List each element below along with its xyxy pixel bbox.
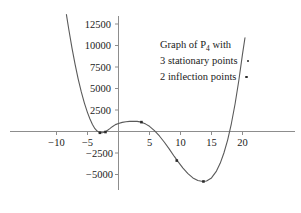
curve-marked-point <box>202 180 205 183</box>
y-tick-label-2500: 2500 <box>90 105 111 116</box>
stationary-point-dot-icon <box>247 60 249 62</box>
x-tick-label-5: 5 <box>147 137 152 148</box>
annotation-line-3: 2 inflection points <box>160 70 248 84</box>
x-tick-label-minus10: −10 <box>48 137 64 148</box>
y-axis-ticks <box>115 24 119 175</box>
y-tick-label-5000: 5000 <box>90 83 111 94</box>
stationary-points-label: 3 stationary points <box>160 55 238 66</box>
y-tick-label-12500: 12500 <box>85 19 111 30</box>
curve-marked-point <box>104 131 107 134</box>
x-tick-label-20: 20 <box>237 137 248 148</box>
y-tick-label-10000: 10000 <box>85 40 111 51</box>
y-tick-label-minus2500: −2500 <box>86 148 113 159</box>
y-tick-label-7500: 7500 <box>90 62 111 73</box>
annotation-line-2: 3 stationary points <box>160 54 249 68</box>
plot-canvas: 12500 10000 7500 5000 2500 −2500 −5000 −… <box>0 0 301 213</box>
chart-figure: 12500 10000 7500 5000 2500 −2500 −5000 −… <box>0 0 301 213</box>
annotation-graph-of-label: Graph of P <box>160 39 206 50</box>
inflection-points-label: 2 inflection points <box>160 71 236 82</box>
x-tick-label-10: 10 <box>175 137 186 148</box>
x-tick-label-15: 15 <box>206 137 217 148</box>
x-tick-label-minus5: −5 <box>82 137 93 148</box>
annotation-line-1: Graph of P4 with <box>160 38 231 56</box>
x-axis-ticks <box>57 132 243 136</box>
curve-marked-point <box>175 159 178 162</box>
annotation-with-label: with <box>210 39 231 50</box>
y-tick-label-minus5000: −5000 <box>86 169 113 180</box>
curve-marked-point <box>140 121 143 124</box>
inflection-point-dot-icon <box>245 76 247 78</box>
curve-marked-point <box>99 131 102 134</box>
marked-points-group <box>99 121 205 183</box>
